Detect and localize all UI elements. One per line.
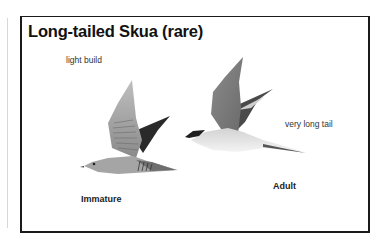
adult-skua-illustration-icon [183,52,313,162]
immature-skua-illustration-icon [78,78,188,178]
annotation-light-build: light build [66,55,102,65]
plate-title: Long-tailed Skua (rare) [28,22,203,41]
figure-label-adult: Adult [273,181,296,191]
page-edge-line [7,18,8,228]
figure-label-immature: Immature [81,194,122,204]
